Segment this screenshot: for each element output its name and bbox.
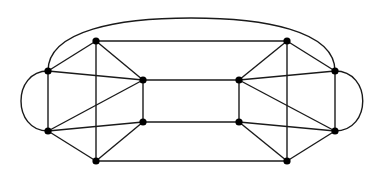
node-B bbox=[92, 157, 99, 164]
graph-diagram bbox=[0, 0, 384, 177]
node-L1 bbox=[44, 67, 51, 74]
edge-F-H bbox=[239, 122, 287, 161]
node-F bbox=[283, 157, 290, 164]
edge-A-C bbox=[96, 41, 143, 80]
node-D bbox=[139, 118, 146, 125]
edge-R2-F bbox=[287, 131, 335, 161]
node-E bbox=[283, 37, 290, 44]
edge-R1-E bbox=[287, 41, 335, 71]
edge-L2-B bbox=[48, 131, 96, 161]
node-C bbox=[139, 76, 146, 83]
node-H bbox=[235, 118, 242, 125]
edge-L1-A bbox=[48, 41, 96, 71]
node-L2 bbox=[44, 127, 51, 134]
node-R2 bbox=[331, 127, 338, 134]
graph-curved-edges bbox=[21, 18, 363, 131]
node-R1 bbox=[331, 67, 338, 74]
curved-edge-R1-R2 bbox=[335, 71, 363, 131]
node-G bbox=[235, 76, 242, 83]
edge-B-D bbox=[96, 122, 143, 161]
node-A bbox=[92, 37, 99, 44]
curved-edge-L1-L2 bbox=[21, 71, 48, 131]
graph-edges bbox=[48, 41, 335, 161]
graph-nodes bbox=[44, 37, 338, 164]
edge-E-G bbox=[239, 41, 287, 80]
